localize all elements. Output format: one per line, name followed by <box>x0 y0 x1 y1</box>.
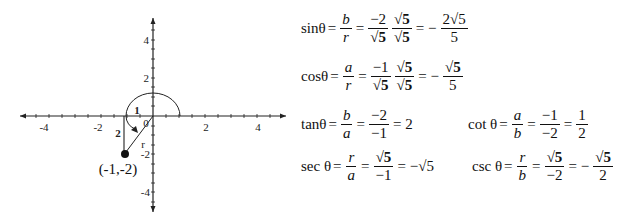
equals: = <box>564 116 572 133</box>
csc-label: csc θ <box>472 158 502 175</box>
point-label: (-1,-2) <box>99 161 138 178</box>
fraction: −1√5 <box>371 60 391 93</box>
y-axis-arrow-up <box>151 18 156 24</box>
equals: = <box>356 20 364 37</box>
cos-label: cosθ <box>301 68 328 85</box>
equals: = <box>532 158 540 175</box>
fraction: √5−2 <box>545 150 565 183</box>
fraction: √52 <box>593 150 613 183</box>
sin-equation: sinθ = br = −2√5 √5√5 = − 2√55 <box>301 12 470 45</box>
y-tick-label: -4 <box>141 186 151 198</box>
result: = −√5 <box>398 158 434 175</box>
equals: = − <box>416 20 437 37</box>
fraction: 12 <box>576 108 588 141</box>
tan-label: tanθ <box>301 116 327 133</box>
equals: = <box>361 158 369 175</box>
x-tick-label: 4 <box>255 121 261 133</box>
equals: = <box>329 116 337 133</box>
equals: = <box>527 116 535 133</box>
equals: = <box>333 158 341 175</box>
vertical-leg-label: 2 <box>115 127 121 139</box>
result: = 2 <box>393 116 413 133</box>
fraction: ab <box>512 108 524 141</box>
x-tick-label: 2 <box>203 121 209 133</box>
fraction: √55 <box>443 60 463 93</box>
fraction: √5√5 <box>392 12 412 45</box>
cot-equation: cot θ = ab = −1−2 = 12 <box>468 108 590 141</box>
equals: = − <box>569 158 590 175</box>
x-axis-arrow-right <box>280 114 286 119</box>
y-tick-label: 4 <box>144 34 150 46</box>
cos-equation: cosθ = ar = −1√5 √5√5 = − √55 <box>301 60 465 93</box>
horizontal-leg-label: 1 <box>134 104 140 116</box>
equals: = <box>499 116 507 133</box>
fraction: √5√5 <box>395 60 415 93</box>
x-axis-arrow-left <box>20 114 26 119</box>
csc-equation: csc θ = rb = √5−2 = − √52 <box>472 150 615 183</box>
cot-label: cot θ <box>468 116 497 133</box>
equals: = <box>330 68 338 85</box>
equals: = <box>356 116 364 133</box>
equals: = − <box>418 68 439 85</box>
terminal-side-r <box>126 116 153 152</box>
equals: = <box>504 158 512 175</box>
coordinate-graph: -4 -2 2 4 4 2 -2 -4 2 1 0 r (-1,-2) <box>0 0 300 215</box>
tan-equation: tanθ = ba = −2−1 = 2 <box>301 108 415 141</box>
point-marker <box>121 150 129 158</box>
x-tick-label: -4 <box>39 121 49 133</box>
equals: = <box>328 20 336 37</box>
y-axis-arrow-down <box>151 206 156 212</box>
fraction: rb <box>517 150 529 183</box>
fraction: √5−1 <box>374 150 394 183</box>
sec-label: sec θ <box>301 158 331 175</box>
equals: = <box>358 68 366 85</box>
y-tick-label: 2 <box>144 72 150 84</box>
x-tick-label: -2 <box>93 121 102 133</box>
fraction: br <box>340 12 352 45</box>
sec-equation: sec θ = ra = √5−1 = −√5 <box>301 150 436 183</box>
fraction: −1−2 <box>540 108 560 141</box>
fraction: −2−1 <box>369 108 389 141</box>
origin-label: 0 <box>143 117 149 129</box>
fraction: ra <box>346 150 358 183</box>
hypotenuse-label: r <box>141 138 145 150</box>
sin-label: sinθ <box>301 20 326 37</box>
fraction: ba <box>341 108 353 141</box>
fraction: 2√55 <box>441 12 468 45</box>
fraction: −2√5 <box>368 12 388 45</box>
fraction: ar <box>343 60 355 93</box>
